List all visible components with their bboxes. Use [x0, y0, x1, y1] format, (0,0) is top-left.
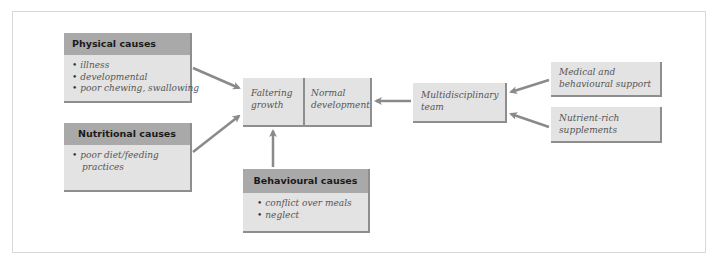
arrow-nutritional-to-faltering — [193, 116, 239, 152]
arrows-layer — [0, 0, 719, 266]
arrow-nutrient-to-team — [511, 114, 549, 127]
arrow-medical-to-team — [511, 80, 549, 92]
arrow-physical-to-faltering — [193, 68, 239, 88]
